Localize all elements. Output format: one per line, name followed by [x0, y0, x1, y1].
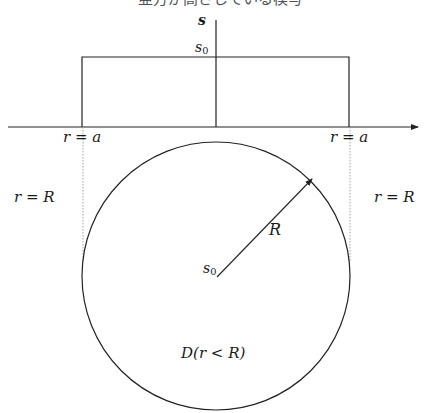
right-a-label: r = a — [330, 130, 368, 145]
center-label: s0 — [203, 261, 216, 277]
left-a-label: r = a — [63, 130, 101, 145]
radius-arrow — [217, 179, 312, 277]
diagram: 亜方が高さしている模写 s s0 r = a r = a r = R r = R… — [0, 0, 429, 413]
rect-height-label: s0 — [195, 40, 208, 56]
s-axis-label: s — [198, 13, 206, 27]
disk-region-label: D(r < R) — [181, 346, 245, 361]
right-R-label: r = R — [374, 190, 415, 205]
figure-caption: 亜方が高さしている模写 — [138, 0, 303, 7]
left-R-label: r = R — [14, 190, 55, 205]
rect-height-label-sub: 0 — [202, 45, 208, 56]
center-label-sub: 0 — [210, 266, 216, 277]
radius-label: R — [269, 222, 281, 238]
